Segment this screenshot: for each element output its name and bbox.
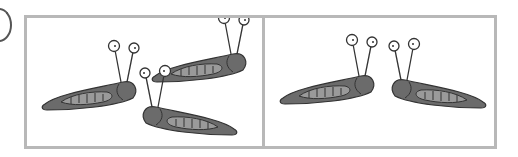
panel-left-three-slugs xyxy=(27,18,262,146)
option-marker-circle xyxy=(0,8,12,42)
panel-right-two-slugs xyxy=(265,18,494,146)
slug-pair-icon xyxy=(265,18,494,146)
slug-group-icon xyxy=(27,18,262,146)
figure-frame xyxy=(24,15,497,149)
